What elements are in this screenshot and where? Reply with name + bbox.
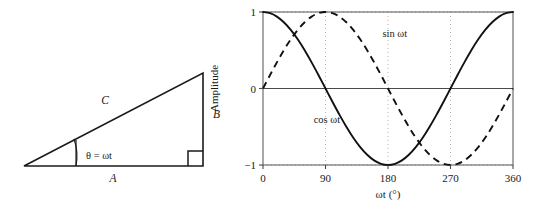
y-axis-title: Amplitude [208, 65, 220, 112]
x-tick-label: 360 [505, 172, 522, 184]
horizontal-side-label: A [108, 172, 117, 184]
sin-cos-chart-panel: 090180270360 −101 ωt (°) Amplitude sin ω… [250, 0, 536, 212]
x-tick-label: 180 [380, 172, 397, 184]
sin-curve-annotation: sin ωt [382, 28, 407, 39]
triangle-outline [24, 73, 203, 166]
y-tick-label: 1 [251, 6, 257, 18]
x-tick-label: 90 [320, 172, 332, 184]
cos-curve-annotation: cos ωt [314, 114, 341, 125]
y-tick-label: 0 [251, 83, 257, 95]
right-angle-square-icon [188, 151, 203, 166]
x-axis-title: ωt (°) [376, 188, 401, 201]
x-tick-label: 270 [442, 172, 459, 184]
y-tick-label: −1 [244, 159, 256, 171]
chart-svg: 090180270360 −101 ωt (°) Amplitude sin ω… [250, 0, 536, 212]
angle-label: θ = ωt [86, 150, 112, 161]
x-axis-ticks: 090180270360 [260, 165, 522, 184]
hypotenuse-label: C [101, 94, 109, 106]
x-tick-label: 0 [260, 172, 266, 184]
figure-root: C B A θ = ωt 090180270360 [0, 0, 536, 212]
